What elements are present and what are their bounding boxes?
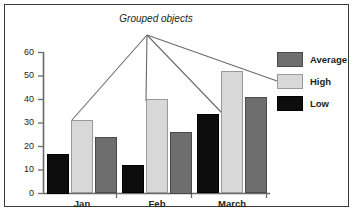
legend-swatch-high (277, 74, 303, 89)
bar-jan-average (95, 137, 117, 194)
legend-swatch-low (277, 96, 303, 111)
y-tick-label-20: 20 (14, 141, 34, 151)
y-tick-label-50: 50 (14, 70, 34, 80)
legend-label-high: High (310, 76, 331, 87)
legend-label-average: Average (310, 54, 347, 65)
legend-label-low: Low (310, 98, 329, 109)
leader-line-feb-high (146, 35, 147, 101)
y-tick-label-10: 10 (14, 164, 34, 174)
y-tick-label-60: 60 (14, 47, 34, 57)
bar-jan-high (71, 120, 93, 193)
y-tick-label-30: 30 (14, 117, 34, 127)
annotation-label: Grouped objects (96, 13, 216, 24)
x-category-label-feb: Feb (127, 198, 187, 209)
bar-feb-high (146, 99, 168, 193)
legend-swatch-average (277, 52, 303, 67)
leader-line-legend-high (147, 35, 277, 81)
x-category-label-march: March (202, 198, 262, 209)
bar-march-average (245, 97, 267, 193)
bar-jan-low (47, 154, 69, 194)
x-category-label-jan: Jan (52, 198, 112, 209)
leader-line-jan-high (72, 35, 147, 120)
y-axis-ticks (38, 53, 44, 194)
bar-feb-average (170, 132, 192, 194)
chart-canvas: Grouped objects 60 (0, 0, 357, 222)
bar-feb-low (122, 165, 144, 193)
y-tick-label-40: 40 (14, 94, 34, 104)
bar-march-high (221, 71, 243, 193)
bar-march-low (197, 114, 219, 194)
y-tick-label-0: 0 (14, 188, 34, 198)
